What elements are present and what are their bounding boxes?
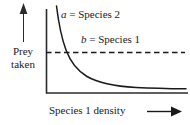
plot-axes [46, 9, 188, 94]
x-axis-label: Species 1 density [49, 105, 125, 116]
x-direction-arrow-icon [147, 107, 182, 117]
annotation-label-a: a = Species 2 [61, 9, 120, 20]
y-direction-arrow-icon [20, 3, 28, 42]
annotation-symbol-b: b [81, 33, 87, 45]
annotation-symbol-a: a [61, 8, 67, 20]
annotation-text-a: Species 2 [78, 8, 120, 20]
annotation-equals-a: = [69, 8, 75, 20]
y-axis-label: Prey taken [1, 45, 45, 70]
annotation-label-b: b = Species 1 [81, 34, 140, 45]
y-axis-label-line-1: Prey [1, 45, 45, 58]
prey-taken-vs-species-density-figure: a = Species 2 b = Species 1 Prey taken S… [0, 0, 190, 125]
y-axis-label-line-2: taken [1, 58, 45, 71]
annotation-text-b: Species 1 [98, 33, 140, 45]
annotation-equals-b: = [89, 33, 95, 45]
